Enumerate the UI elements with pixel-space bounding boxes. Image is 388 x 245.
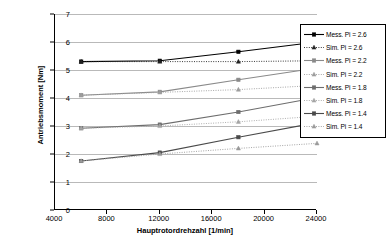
legend-label: Mess. Pi = 2.6 <box>325 31 367 38</box>
x-axis-label: Hauptrotordrehzahl [1/min] <box>54 226 316 235</box>
y-tick-mark <box>50 98 54 99</box>
legend-item[interactable]: Mess. Pi = 2.6 <box>303 28 383 41</box>
data-series-layer <box>55 14 317 210</box>
x-tick-mark <box>106 210 107 214</box>
series-7 <box>79 141 319 163</box>
x-tick-mark <box>211 210 212 214</box>
x-tick-label: 20000 <box>234 214 294 223</box>
legend-label: Sim. Pi = 1.4 <box>325 123 362 130</box>
legend-item[interactable]: Sim. Pi = 2.2 <box>303 68 383 81</box>
y-tick-mark <box>50 182 54 183</box>
series-5 <box>79 114 319 130</box>
series-0 <box>80 40 319 63</box>
legend-key-icon <box>303 121 325 132</box>
series-4 <box>80 96 319 130</box>
legend-label: Sim. Pi = 2.2 <box>325 71 362 78</box>
data-point-marker <box>312 86 315 89</box>
legend-key-icon <box>303 42 325 53</box>
data-point-marker <box>312 46 316 50</box>
y-tick-mark <box>50 70 54 71</box>
legend: Mess. Pi = 2.6Sim. Pi = 2.6Mess. Pi = 2.… <box>300 24 386 138</box>
data-point-marker <box>312 72 316 76</box>
data-point-marker <box>237 78 240 81</box>
x-tick-label: 4000 <box>24 214 84 223</box>
legend-item[interactable]: Mess. Pi = 1.4 <box>303 107 383 120</box>
plot-area <box>54 14 316 210</box>
legend-key-icon <box>303 95 325 106</box>
y-tick-mark <box>50 126 54 127</box>
legend-item[interactable]: Mess. Pi = 1.8 <box>303 81 383 94</box>
x-tick-label: 16000 <box>181 214 241 223</box>
data-point-marker <box>237 136 240 139</box>
data-point-marker <box>315 141 319 145</box>
series-line <box>81 123 317 161</box>
y-axis-label: Antriebsmoment [Nm] <box>36 66 45 145</box>
y-tick-mark <box>50 154 54 155</box>
series-2 <box>80 66 319 97</box>
x-tick-label: 8000 <box>76 214 136 223</box>
legend-label: Mess. Pi = 1.4 <box>325 110 367 117</box>
legend-item[interactable]: Sim. Pi = 1.4 <box>303 120 383 133</box>
series-line <box>81 42 317 62</box>
legend-key-icon <box>303 108 325 119</box>
legend-label: Mess. Pi = 1.8 <box>325 84 367 91</box>
legend-key-icon <box>303 55 325 66</box>
legend-label: Sim. Pi = 1.8 <box>325 97 362 104</box>
data-point-marker <box>312 59 315 62</box>
y-tick-mark <box>50 42 54 43</box>
data-point-marker <box>237 110 240 113</box>
y-tick-mark <box>50 14 54 15</box>
legend-key-icon <box>303 82 325 93</box>
data-point-marker <box>312 125 316 129</box>
x-tick-label: 24000 <box>286 214 346 223</box>
legend-key-icon <box>303 29 325 40</box>
x-tick-label: 12000 <box>129 214 189 223</box>
legend-item[interactable]: Sim. Pi = 2.6 <box>303 41 383 54</box>
data-point-marker <box>312 98 316 102</box>
data-point-marker <box>237 50 240 53</box>
x-tick-mark <box>264 210 265 214</box>
y-axis-label-wrap: Antriebsmoment [Nm] <box>2 0 16 210</box>
series-line <box>81 143 317 161</box>
chart-root: Antriebsmoment [Nm] 01234567 40008000120… <box>0 0 388 245</box>
legend-label: Mess. Pi = 2.2 <box>325 57 367 64</box>
legend-item[interactable]: Mess. Pi = 2.2 <box>303 54 383 67</box>
x-tick-mark <box>316 210 317 214</box>
data-point-marker <box>312 33 315 36</box>
legend-key-icon <box>303 69 325 80</box>
series-3 <box>79 83 319 97</box>
legend-label: Sim. Pi = 2.6 <box>325 44 362 51</box>
y-tick-mark <box>50 210 54 211</box>
x-tick-mark <box>159 210 160 214</box>
legend-item[interactable]: Sim. Pi = 1.8 <box>303 94 383 107</box>
data-point-marker <box>312 112 315 115</box>
